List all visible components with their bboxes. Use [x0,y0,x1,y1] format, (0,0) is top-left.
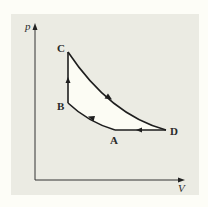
y-axis-label: p [24,20,31,32]
pv-diagram: p V C B A D [0,0,208,207]
point-label-d: D [170,125,178,137]
point-label-c: C [57,42,65,54]
cycle-region [68,52,166,130]
y-axis-arrow-icon [33,23,38,30]
point-label-b: B [57,100,65,112]
x-axis-label: V [178,182,186,194]
point-label-a: A [110,134,118,146]
